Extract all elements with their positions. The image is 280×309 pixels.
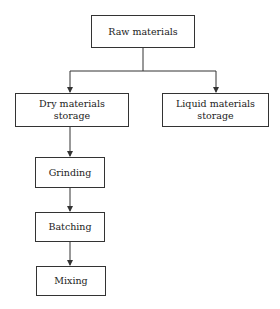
node-liquid-materials-storage: Liquid materials storage bbox=[162, 93, 269, 127]
node-label-line2: storage bbox=[197, 110, 233, 122]
node-label: Batching bbox=[48, 221, 91, 233]
node-label-line2: storage bbox=[54, 110, 90, 122]
node-label-line1: Dry materials bbox=[39, 98, 105, 110]
node-label: Grinding bbox=[49, 167, 92, 179]
node-grinding: Grinding bbox=[35, 157, 105, 188]
node-batching: Batching bbox=[35, 212, 105, 242]
node-label: Raw materials bbox=[108, 26, 177, 38]
node-raw-materials: Raw materials bbox=[91, 15, 195, 48]
node-label: Mixing bbox=[54, 275, 87, 287]
node-dry-materials-storage: Dry materials storage bbox=[15, 93, 129, 127]
node-label-line1: Liquid materials bbox=[176, 98, 255, 110]
node-mixing: Mixing bbox=[36, 266, 106, 296]
